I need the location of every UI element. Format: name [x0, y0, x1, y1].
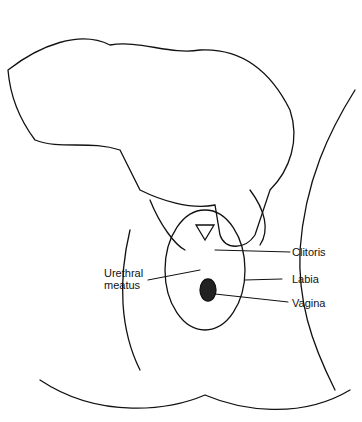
gloved-hand-outline [8, 39, 294, 246]
label-urethral-meatus: Urethral meatus [104, 267, 143, 291]
anatomical-diagram: Clitoris Urethral meatus Labia Vagina [0, 0, 362, 422]
label-labia: Labia [292, 273, 319, 285]
label-clitoris: Clitoris [292, 246, 326, 258]
clitoral-hood [196, 225, 214, 240]
body-contour-left [123, 230, 140, 370]
central-region [165, 210, 245, 330]
body-contour-right [300, 90, 355, 390]
line-art [0, 0, 362, 422]
lower-contour [40, 380, 350, 409]
label-vagina: Vagina [292, 297, 325, 309]
vaginal-opening [200, 279, 216, 301]
